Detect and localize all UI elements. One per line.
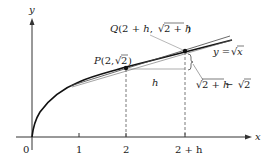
svg-text:): ) <box>128 55 132 66</box>
svg-text:−: − <box>225 79 233 90</box>
x-axis-arrow-icon <box>245 135 252 140</box>
tick-2h-label: 2 + h <box>175 144 203 155</box>
point-q-label: Q(2 + h, √ 2 + h ) <box>110 23 192 34</box>
q-leader <box>150 35 183 50</box>
svg-text:P)(2,: P)(2, <box>93 55 114 66</box>
rise-label: √ 2 + h − √ 2 <box>196 79 251 90</box>
svg-text:x: x <box>237 46 243 57</box>
origin-label: 0 <box>23 144 29 155</box>
tick-2-label: 2 <box>123 144 129 155</box>
point-q <box>183 49 187 53</box>
rise-brace <box>188 54 193 70</box>
svg-text:Q(2 + h,: Q(2 + h, <box>110 23 153 34</box>
tick-1-label: 1 <box>76 144 82 155</box>
svg-text:): ) <box>187 23 191 34</box>
svg-text:2: 2 <box>244 79 250 90</box>
y-axis-arrow-icon <box>30 18 35 25</box>
point-p <box>124 66 128 70</box>
svg-text:y =: y = <box>212 46 230 57</box>
x-axis-label: x <box>255 131 261 142</box>
curve-label: y = √ x <box>212 46 244 57</box>
point-p-label: P)(2, √ 2 ) <box>93 55 132 66</box>
sqrt-secant-diagram: y x 0 1 2 2 + h P)(2, √ 2 ) Q(2 + h, √ 2… <box>0 0 262 163</box>
rise-leader <box>193 64 203 80</box>
y-axis-label: y <box>28 4 35 15</box>
h-label: h <box>152 77 158 88</box>
svg-text:2: 2 <box>121 55 127 66</box>
